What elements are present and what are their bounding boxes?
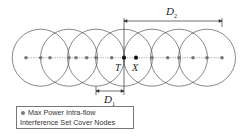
gray-node-legend-icon <box>21 111 25 115</box>
label-T: T <box>115 62 121 73</box>
node <box>48 56 52 60</box>
node <box>94 56 98 60</box>
label-D2-text: D <box>166 5 174 17</box>
node <box>150 56 154 60</box>
node <box>166 56 170 60</box>
node <box>220 56 224 60</box>
node <box>74 56 78 60</box>
node <box>110 56 114 60</box>
label-D2-sub: 2 <box>174 13 177 19</box>
node <box>67 56 71 60</box>
node <box>24 56 28 60</box>
label-D2: D2 <box>166 5 177 19</box>
legend-line-1: Max Power Intra-flow <box>20 108 130 118</box>
node <box>177 56 181 60</box>
legend-text-1: Max Power Intra-flow <box>28 108 96 117</box>
receiver-node-X <box>134 56 138 60</box>
node <box>39 56 43 60</box>
node <box>191 56 195 60</box>
d2-dimension <box>124 18 222 57</box>
legend: Max Power Intra-flow Interference Set Co… <box>16 106 134 129</box>
label-X: X <box>132 62 138 73</box>
node <box>85 56 89 60</box>
legend-line-2: Interference Set Cover Nodes <box>20 118 130 128</box>
node <box>205 56 209 60</box>
label-D1-text: D <box>104 93 112 105</box>
